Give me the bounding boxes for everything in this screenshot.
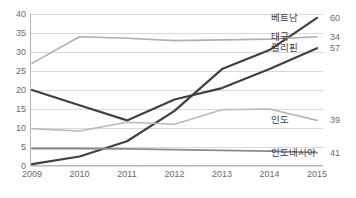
gridline — [31, 166, 323, 167]
y-axis-tick-label: 25 — [2, 67, 26, 76]
y-axis-tick-label: 10 — [2, 124, 26, 133]
y-axis-tick-label: 15 — [2, 105, 26, 114]
y-axis-tick-label: 20 — [2, 86, 26, 95]
series-end-value-4: 41 — [330, 148, 354, 157]
x-axis-tick-label: 2010 — [60, 168, 100, 180]
series-label-4: 인도네시아 — [271, 148, 316, 158]
x-axis: 2009201020112012201320142015 — [30, 168, 323, 184]
x-axis-tick-label: 2013 — [202, 168, 242, 180]
y-axis-tick-label: 30 — [2, 48, 26, 57]
x-axis-tick-label: 2014 — [250, 168, 290, 180]
series-end-value-0: 60 — [330, 13, 354, 22]
line-chart: 0510152025303540 20092010201120122013201… — [0, 0, 356, 198]
series-label-2: 필리핀 — [271, 43, 298, 53]
series-label-1: 태국 — [271, 32, 289, 42]
series-label-3: 인도 — [271, 115, 289, 125]
series-end-value-2: 57 — [330, 44, 354, 53]
series-label-0: 베트남 — [271, 13, 298, 23]
y-axis: 0510152025303540 — [0, 14, 26, 166]
series-end-value-3: 39 — [330, 116, 354, 125]
x-axis-tick-label: 2012 — [155, 168, 195, 180]
x-axis-tick-label: 2015 — [297, 168, 337, 180]
x-axis-tick-label: 2009 — [12, 168, 52, 180]
y-axis-tick-label: 40 — [2, 10, 26, 19]
y-axis-tick-label: 35 — [2, 29, 26, 38]
x-axis-tick-label: 2011 — [107, 168, 147, 180]
y-axis-tick-label: 5 — [2, 143, 26, 152]
series-end-value-1: 34 — [330, 32, 354, 41]
